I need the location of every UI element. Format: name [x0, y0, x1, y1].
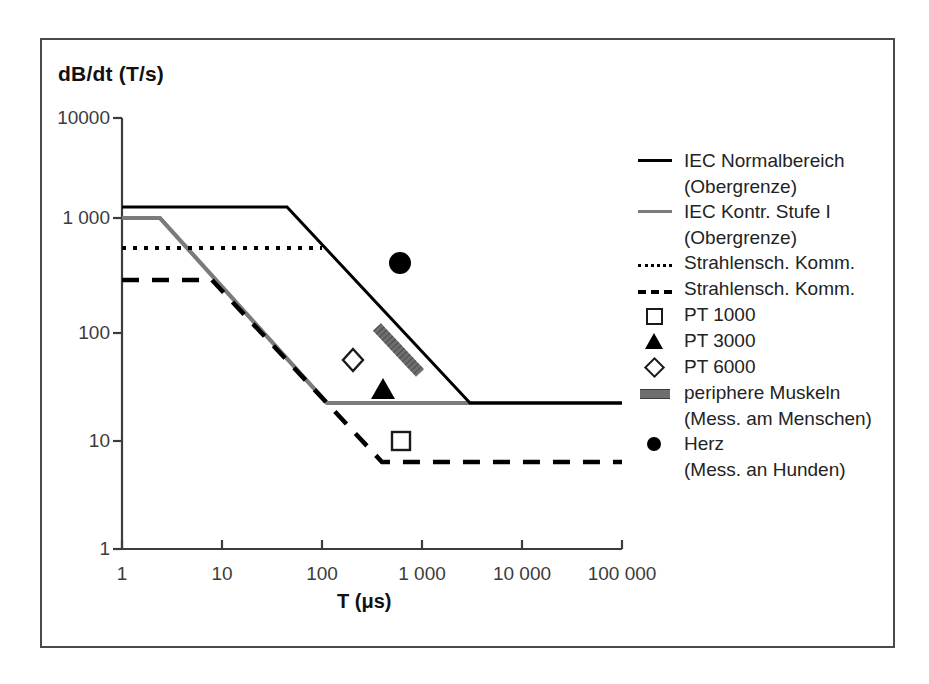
- legend-item-iec-normalbereich: IEC Normalbereich: [636, 148, 886, 173]
- series-iec-normalbereich: [122, 207, 622, 403]
- legend-label-strahlensch-komm-dashed: Strahlensch. Komm.: [684, 276, 855, 301]
- legend-diamond-open-icon: [636, 354, 676, 379]
- series-iec-kontr-stufe-1: [122, 218, 622, 403]
- legend-item-periphere-muskeln: periphere Muskeln: [636, 380, 886, 405]
- legend-label-herz-line2: (Mess. an Hunden): [684, 457, 886, 482]
- legend-label-pt-1000: PT 1000: [684, 302, 755, 327]
- series-strahlensch-komm-dashed: [122, 280, 622, 462]
- legend-line-dotted-icon: [636, 250, 676, 275]
- legend-label-periphere-muskeln: periphere Muskeln: [684, 380, 840, 405]
- legend-label-iec-kontr-stufe-1: IEC Kontr. Stufe I: [684, 199, 831, 224]
- legend-label-strahlensch-komm-dotted: Strahlensch. Komm.: [684, 250, 855, 275]
- band-periphere-muskeln: [377, 327, 420, 373]
- legend-label-pt-6000: PT 6000: [684, 354, 755, 379]
- figure-container: dB/dt (T/s) T (μs) 10000 1 000 100 10 1 …: [0, 0, 929, 684]
- marker-pt-6000: [343, 349, 363, 371]
- legend-square-open-icon: [636, 302, 676, 327]
- legend-line-solid-gray-icon: [636, 199, 676, 224]
- marker-pt-1000: [392, 432, 410, 450]
- legend-item-pt-3000: PT 3000: [636, 328, 886, 353]
- legend: IEC Normalbereich (Obergrenze) IEC Kontr…: [636, 148, 886, 482]
- legend-line-dashed-icon: [636, 276, 676, 301]
- legend-label-periphere-muskeln-line2: (Mess. am Menschen): [684, 406, 886, 431]
- axis-spines: [113, 118, 622, 549]
- legend-label-iec-normalbereich-line2: (Obergrenze): [684, 174, 886, 199]
- legend-item-herz: Herz: [636, 431, 886, 456]
- marker-pt-3000: [371, 378, 395, 399]
- legend-item-strahlensch-komm-dotted: Strahlensch. Komm.: [636, 250, 886, 275]
- legend-item-pt-1000: PT 1000: [636, 302, 886, 327]
- legend-circle-filled-icon: [636, 431, 676, 456]
- legend-label-herz: Herz: [684, 431, 724, 456]
- legend-item-strahlensch-komm-dashed: Strahlensch. Komm.: [636, 276, 886, 301]
- legend-item-pt-6000: PT 6000: [636, 354, 886, 379]
- legend-line-solid-black-icon: [636, 148, 676, 173]
- legend-label-iec-kontr-stufe-1-line2: (Obergrenze): [684, 225, 886, 250]
- legend-label-iec-normalbereich: IEC Normalbereich: [684, 148, 845, 173]
- legend-item-iec-kontr-stufe-1: IEC Kontr. Stufe I: [636, 199, 886, 224]
- legend-thick-bar-gray-icon: [636, 380, 676, 405]
- legend-triangle-filled-icon: [636, 328, 676, 353]
- legend-label-pt-3000: PT 3000: [684, 328, 755, 353]
- marker-herz: [389, 252, 411, 274]
